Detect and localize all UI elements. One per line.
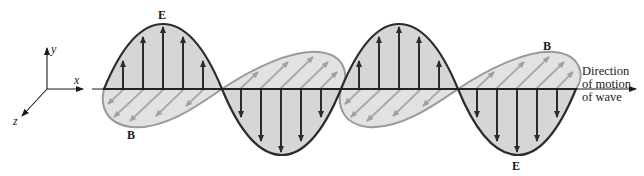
direction-of-motion-label: Direction of motion of wave	[582, 64, 632, 104]
em-wave-diagram: y x z	[0, 0, 644, 176]
b-lobe-1	[103, 89, 222, 127]
e-field-label-bottom: E	[512, 159, 520, 173]
e-field-label-top: E	[158, 8, 166, 22]
direction-line-2: of motion	[582, 77, 632, 91]
b-lobe-3	[340, 89, 458, 127]
coordinate-axes: y x z	[12, 42, 83, 128]
y-axis-label: y	[50, 42, 57, 56]
b-field-label-right: B	[543, 39, 551, 53]
direction-line-3: of wave	[582, 90, 622, 104]
x-axis-label: x	[73, 73, 80, 87]
z-axis-arrow	[22, 89, 47, 116]
direction-line-1: Direction	[582, 64, 630, 78]
z-axis-label: z	[12, 114, 18, 128]
b-field-label-left: B	[127, 128, 135, 142]
